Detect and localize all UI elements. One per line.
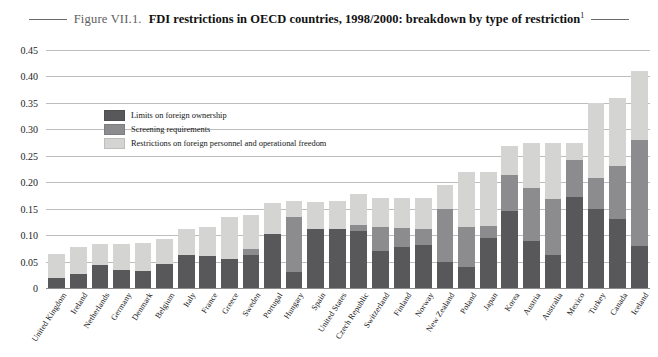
bar-group[interactable] [135, 243, 152, 288]
bar-segment [372, 227, 389, 251]
bar-segment [307, 229, 324, 288]
bar-segment [480, 172, 497, 226]
bar-group[interactable] [178, 229, 195, 288]
bar-segment [394, 198, 411, 228]
bar-segment [48, 254, 65, 279]
bar-group[interactable] [372, 198, 389, 288]
bar-segment [350, 231, 367, 288]
bar-group[interactable] [480, 172, 497, 288]
bars-layer [46, 50, 650, 288]
bar-segment [480, 238, 497, 288]
bar-group[interactable] [501, 146, 518, 288]
bar-segment [350, 194, 367, 224]
legend-label: Screening requirements [131, 125, 210, 134]
x-axis-tick-label: Austria [522, 291, 543, 317]
bar-group[interactable] [70, 247, 87, 288]
bar-group[interactable] [307, 202, 324, 288]
bar-group[interactable] [609, 98, 626, 288]
bar-group[interactable] [113, 244, 130, 288]
bar-segment [199, 227, 216, 256]
bar-segment [545, 255, 562, 288]
bar-group[interactable] [415, 198, 432, 288]
bar-group[interactable] [566, 143, 583, 288]
bar-group[interactable] [199, 227, 216, 288]
bar-segment [458, 267, 475, 288]
x-axis-tick-label: Belgium [153, 291, 176, 320]
bar-group[interactable] [156, 239, 173, 288]
bar-segment [113, 244, 130, 269]
bar-group[interactable] [350, 194, 367, 288]
y-axis-tick-label: 0.25 [21, 150, 39, 161]
bar-group[interactable] [264, 203, 281, 288]
y-axis-tick-label: 0.30 [21, 124, 39, 135]
bar-group[interactable] [545, 143, 562, 288]
bar-segment [135, 243, 152, 271]
bar-segment [609, 98, 626, 167]
bar-segment [566, 160, 583, 197]
y-axis-tick-label: 0.20 [21, 177, 39, 188]
bar-group[interactable] [221, 217, 238, 288]
bar-segment [631, 71, 648, 140]
bar-segment [545, 143, 562, 200]
y-axis: 00.050.100.150.200.250.300.350.400.45 [0, 50, 42, 288]
bar-segment [458, 227, 475, 267]
bar-group[interactable] [394, 198, 411, 288]
legend-swatch-limits [104, 110, 125, 121]
bar-segment [523, 188, 540, 242]
bar-segment [113, 270, 130, 289]
bar-segment [566, 143, 583, 160]
bar-segment [631, 246, 648, 288]
x-axis-tick-label: Finland [392, 291, 414, 317]
bar-group[interactable] [631, 71, 648, 288]
bar-segment [329, 229, 346, 288]
title-footnote-marker: 1 [580, 11, 584, 20]
bar-segment [415, 229, 432, 245]
bar-segment [178, 229, 195, 255]
bar-segment [437, 185, 454, 209]
bar-segment [480, 226, 497, 238]
x-axis-tick-label: Germany [109, 291, 134, 322]
bar-segment [221, 259, 238, 288]
legend-item: Restrictions on foreign personnel and op… [104, 138, 326, 149]
bar-segment [135, 271, 152, 288]
bar-segment [70, 274, 87, 288]
bar-segment [243, 215, 260, 249]
bar-segment [264, 203, 281, 234]
legend-label: Restrictions on foreign personnel and op… [131, 139, 326, 148]
x-axis-tick-label: Ireland [69, 291, 90, 316]
figure-number: Figure VII.1. [74, 12, 142, 27]
y-axis-tick-label: 0.05 [21, 256, 39, 267]
plot-area: Limits on foreign ownershipScreening req… [46, 50, 650, 288]
bar-segment [523, 143, 540, 188]
bar-group[interactable] [523, 143, 540, 288]
bar-group[interactable] [48, 254, 65, 288]
bar-segment [48, 278, 65, 288]
bar-segment [286, 217, 303, 273]
bar-segment [394, 228, 411, 247]
bar-group[interactable] [588, 103, 605, 288]
bar-segment [631, 140, 648, 246]
y-axis-tick-label: 0.35 [21, 97, 39, 108]
bar-segment [588, 103, 605, 178]
bar-group[interactable] [243, 215, 260, 288]
bar-segment [501, 211, 518, 288]
y-axis-tick-label: 0.15 [21, 203, 39, 214]
bar-segment [458, 172, 475, 228]
bar-segment [178, 255, 195, 288]
y-axis-tick-label: 0.40 [21, 71, 39, 82]
bar-segment [437, 209, 454, 262]
bar-group[interactable] [329, 201, 346, 288]
x-axis-tick-label: Korea [503, 291, 522, 313]
bar-group[interactable] [458, 172, 475, 288]
figure-title-bar: Figure VII.1. FDI restrictions in OECD c… [0, 8, 658, 30]
bar-group[interactable] [286, 201, 303, 288]
bar-segment [372, 198, 389, 227]
bar-group[interactable] [92, 244, 109, 288]
bar-segment [501, 175, 518, 211]
x-axis-tick-label: France [199, 291, 219, 315]
bar-segment [437, 262, 454, 288]
bar-segment [394, 247, 411, 288]
bar-group[interactable] [437, 185, 454, 288]
bar-segment [156, 264, 173, 288]
bar-segment [609, 219, 626, 288]
